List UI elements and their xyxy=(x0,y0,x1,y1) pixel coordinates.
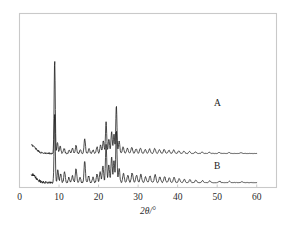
x-tick-label: 30 xyxy=(133,192,143,202)
x-tick-label: 50 xyxy=(212,192,222,202)
x-tick-label: 40 xyxy=(173,192,183,202)
xrd-plot: 0102030405060 2θ/° A B xyxy=(0,0,296,225)
xrd-figure: 0102030405060 2θ/° A B xyxy=(0,0,296,225)
x-tick-label: 60 xyxy=(252,192,262,202)
curve-label-a: A xyxy=(214,98,221,108)
x-tick-label: 10 xyxy=(54,192,64,202)
x-tick-label: 0 xyxy=(17,192,22,202)
curve-label-b: B xyxy=(214,161,220,171)
x-tick-label: 20 xyxy=(94,192,104,202)
x-axis-title: 2θ/° xyxy=(140,206,156,216)
